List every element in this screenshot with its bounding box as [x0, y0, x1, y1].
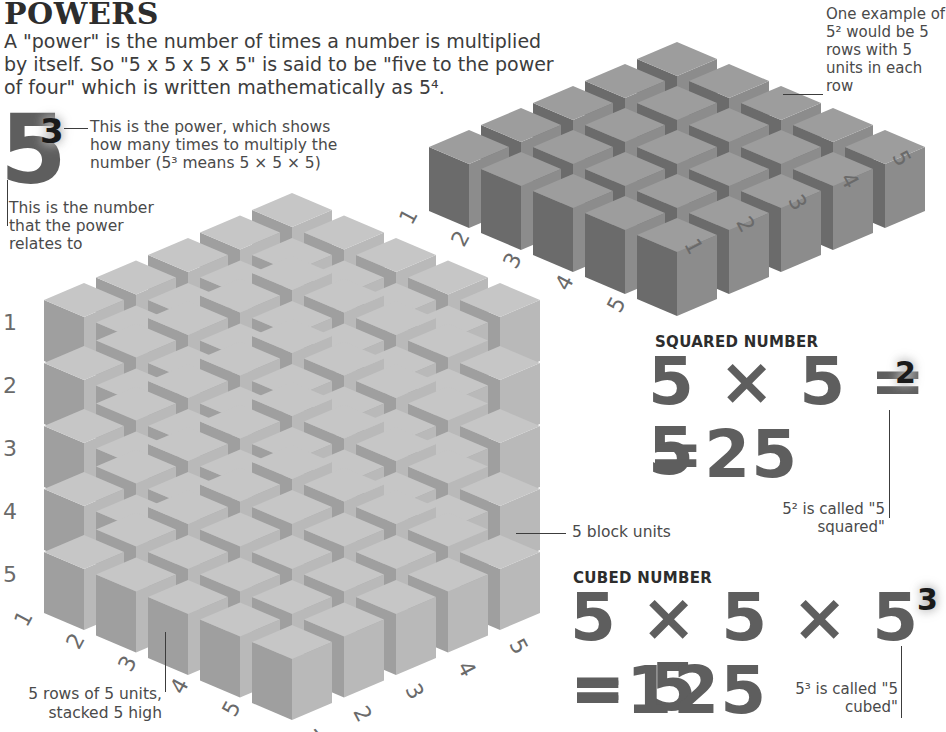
cube-row-label: 3	[113, 651, 142, 675]
layer-label: 2	[3, 373, 17, 398]
square-row-label: 5	[602, 292, 631, 316]
cube-block-5x5x5	[44, 193, 540, 720]
intro-paragraph: A "power" is the number of times a numbe…	[4, 30, 564, 99]
cube-row-label: 5	[217, 696, 246, 720]
squared-note: 5² is called "5 squared"	[765, 500, 885, 536]
number-leader-line	[7, 180, 8, 226]
square-example-leader-line	[783, 94, 823, 95]
cubed-note: 5³ is called "5 cubed"	[780, 680, 898, 716]
cube-col-label: 1	[296, 724, 325, 732]
cube-row-label: 1	[9, 606, 38, 630]
block-units-note: 5 block units	[572, 523, 671, 541]
cube-col-label: 4	[452, 657, 481, 681]
layer-label: 3	[3, 436, 17, 461]
cube-row-label: 4	[165, 674, 194, 698]
block-units-leader-line	[516, 533, 566, 534]
cubed-result: =125	[570, 656, 767, 726]
cubed-leader-line	[901, 646, 902, 718]
squared-leader-line	[889, 410, 890, 518]
power-leader-line	[64, 128, 88, 129]
cube-col-label: 2	[348, 702, 377, 726]
cube-unit	[637, 218, 717, 316]
layer-label: 5	[3, 562, 17, 587]
cube-col-label: 3	[400, 679, 429, 703]
power-note: This is the power, which shows how many …	[90, 118, 350, 172]
square-row-label: 3	[498, 248, 527, 272]
square-example-note: One example of 5² would be 5 rows with 5…	[826, 5, 946, 95]
layer-label: 4	[3, 499, 17, 524]
square-row-label: 4	[550, 270, 579, 294]
layer-label: 1	[3, 310, 17, 335]
cubed-exponent: 3	[917, 585, 938, 615]
cube-col-label: 5	[504, 634, 533, 658]
square-row-label: 1	[394, 204, 423, 228]
square-row-label: 2	[446, 226, 475, 250]
cube-unit	[252, 625, 332, 720]
squared-exponent: 2	[895, 358, 916, 388]
number-note: This is the number that the power relate…	[9, 199, 179, 253]
squared-result: =25	[648, 420, 798, 490]
exponent-number: 3	[40, 114, 64, 148]
cube-row-label: 2	[61, 629, 90, 653]
rows-note: 5 rows of 5 units, stacked 5 high	[20, 685, 162, 723]
page-title: POWERS	[4, 0, 159, 31]
rows-leader-line	[165, 632, 166, 692]
